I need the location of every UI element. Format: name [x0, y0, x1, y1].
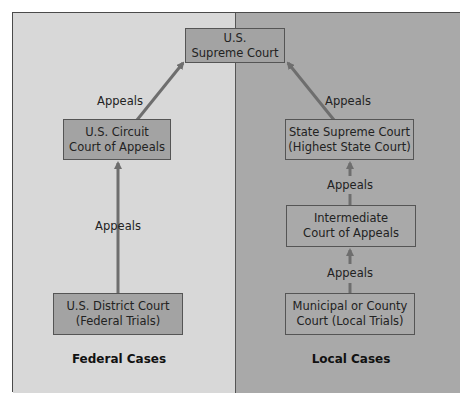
intermediate-court-node: Intermediate Court of Appeals: [286, 205, 416, 247]
node-line: U.S.: [223, 31, 246, 46]
local-cases-heading: Local Cases: [312, 352, 391, 366]
node-line: (Federal Trials): [76, 314, 161, 329]
us-district-court-node: U.S. District Court (Federal Trials): [53, 293, 183, 335]
edge-label-state-to-supreme: Appeals: [325, 94, 371, 108]
federal-cases-heading: Federal Cases: [72, 352, 166, 366]
node-line: Court of Appeals: [303, 226, 399, 241]
arrow-state-to-supreme: [288, 63, 334, 120]
municipal-court-node: Municipal or County Court (Local Trials): [285, 293, 415, 335]
arrow-circuit-to-supreme: [137, 63, 183, 120]
node-line: Court (Local Trials): [296, 314, 403, 329]
node-line: U.S. Circuit: [85, 125, 149, 140]
state-supreme-court-node: State Supreme Court (Highest State Court…: [285, 119, 414, 160]
us-supreme-court-node: U.S. Supreme Court: [185, 28, 285, 63]
node-line: (Highest State Court): [288, 140, 410, 155]
us-circuit-court-node: U.S. Circuit Court of Appeals: [63, 119, 171, 160]
node-line: State Supreme Court: [289, 125, 410, 140]
node-line: Supreme Court: [192, 46, 279, 61]
node-line: Court of Appeals: [69, 140, 165, 155]
node-line: Intermediate: [314, 211, 388, 226]
node-line: U.S. District Court: [66, 299, 169, 314]
edge-label-municipal-to-intermediate: Appeals: [327, 266, 373, 280]
edge-label-intermediate-to-state: Appeals: [327, 178, 373, 192]
edge-label-district-to-circuit: Appeals: [95, 219, 141, 233]
node-line: Municipal or County: [293, 299, 408, 314]
edge-label-circuit-to-supreme: Appeals: [97, 94, 143, 108]
